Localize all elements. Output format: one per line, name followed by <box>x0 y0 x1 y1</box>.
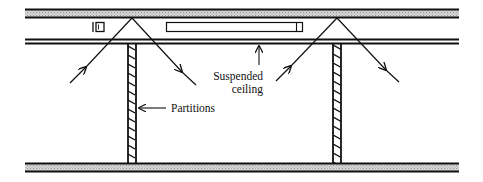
suspended-ceiling-callout: Suspended ceiling <box>213 46 263 96</box>
light-fixture-small <box>93 22 104 32</box>
suspended-label-line2: ceiling <box>232 83 264 96</box>
arrow-down-right-icon <box>132 18 182 72</box>
partitions-label: Partitions <box>171 102 216 114</box>
lower-floor-slab <box>25 164 459 172</box>
arrow-up-right-icon <box>70 67 86 83</box>
arrow-up-right-icon <box>276 66 291 81</box>
light-fixture-long <box>167 23 303 32</box>
suspended-label-line1: Suspended <box>213 70 263 83</box>
suspended-ceiling <box>25 40 459 44</box>
left-partition <box>128 44 136 163</box>
suspended-ceiling-diagram: Suspended ceiling Partitions <box>0 0 483 182</box>
partitions-callout: Partitions <box>139 102 216 114</box>
upper-floor-slab <box>25 10 459 18</box>
right-partition <box>333 44 341 163</box>
